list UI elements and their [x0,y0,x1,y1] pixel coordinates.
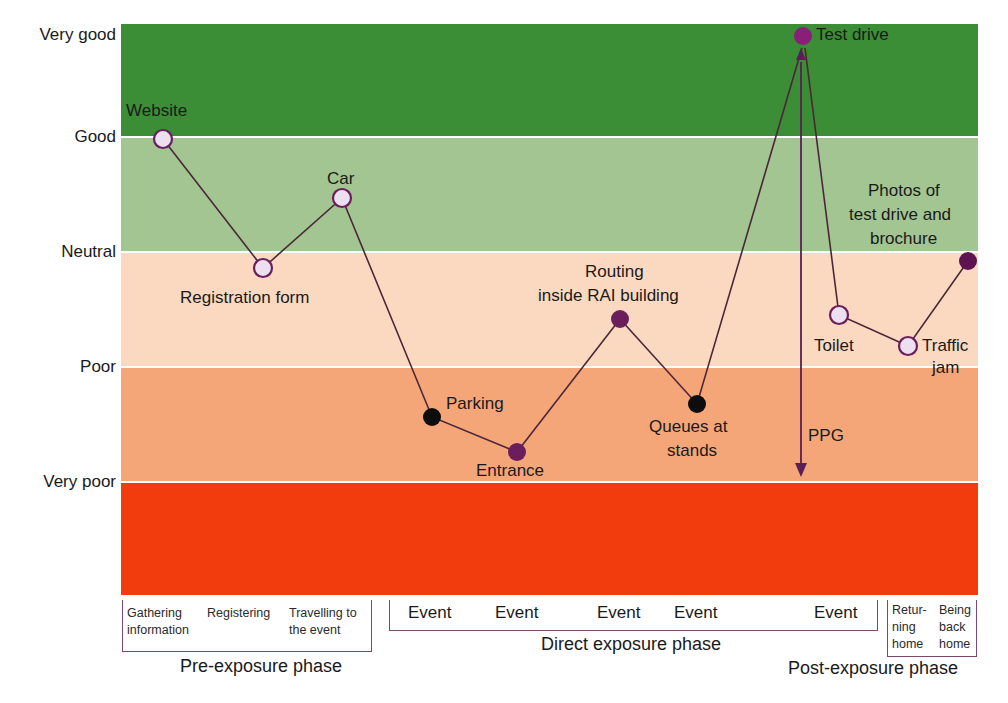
label-test-drive: Test drive [816,25,889,45]
label-registration-form: Registration form [180,288,309,308]
label-queues-2: stands [667,441,717,461]
stage-travelling-2: the event [289,622,340,638]
stage-travelling-1: Travelling to [289,605,357,621]
stage-gathering-1: Gathering [127,605,182,621]
label-photos-1: Photos of [868,181,940,201]
label-photos-2: test drive and [849,205,951,225]
event-2: Event [495,603,538,623]
marker-entrance [508,443,526,461]
stage-gathering-2: information [127,622,189,638]
marker-car [333,189,351,207]
event-3: Event [597,603,640,623]
customer-journey-chart: Very good Good Neutral Poor Very poor [0,0,1008,703]
marker-toilet [830,306,848,324]
event-4: Event [674,603,717,623]
arrow-down-icon [795,463,807,477]
label-routing-1: Routing [585,262,644,282]
stage-returning-3: home [892,636,923,652]
phase-post-exposure: Post-exposure phase [788,658,958,679]
marker-registration-form [254,259,272,277]
stage-back-home-2: back [939,619,965,635]
stage-back-home-1: Being [939,602,971,618]
label-toilet: Toilet [814,336,854,356]
stage-back-home-3: home [939,636,970,652]
marker-photos [959,252,977,270]
label-routing-2: inside RAI building [538,286,679,306]
label-car: Car [327,169,354,189]
marker-queues [688,395,706,413]
label-traffic-1: Traffic [922,336,968,356]
label-website: Website [126,101,187,121]
event-5: Event [814,603,857,623]
stage-returning-2: ning [892,619,916,635]
ppg-arrow [795,48,807,477]
label-photos-3: brochure [870,229,937,249]
phase-pre-exposure: Pre-exposure phase [180,656,342,677]
label-entrance: Entrance [476,461,544,481]
journey-line [163,48,968,452]
marker-website [154,130,172,148]
marker-traffic-jam [899,337,917,355]
label-parking: Parking [446,394,504,414]
marker-routing [611,310,629,328]
phase-direct-exposure: Direct exposure phase [541,634,721,655]
label-ppg: PPG [808,426,844,446]
label-traffic-2: jam [932,358,959,378]
event-1: Event [408,603,451,623]
marker-test-drive [794,27,812,45]
marker-parking [423,408,441,426]
stage-returning-1: Retur- [892,602,927,618]
label-queues-1: Queues at [649,417,727,437]
stage-registering: Registering [207,605,270,621]
